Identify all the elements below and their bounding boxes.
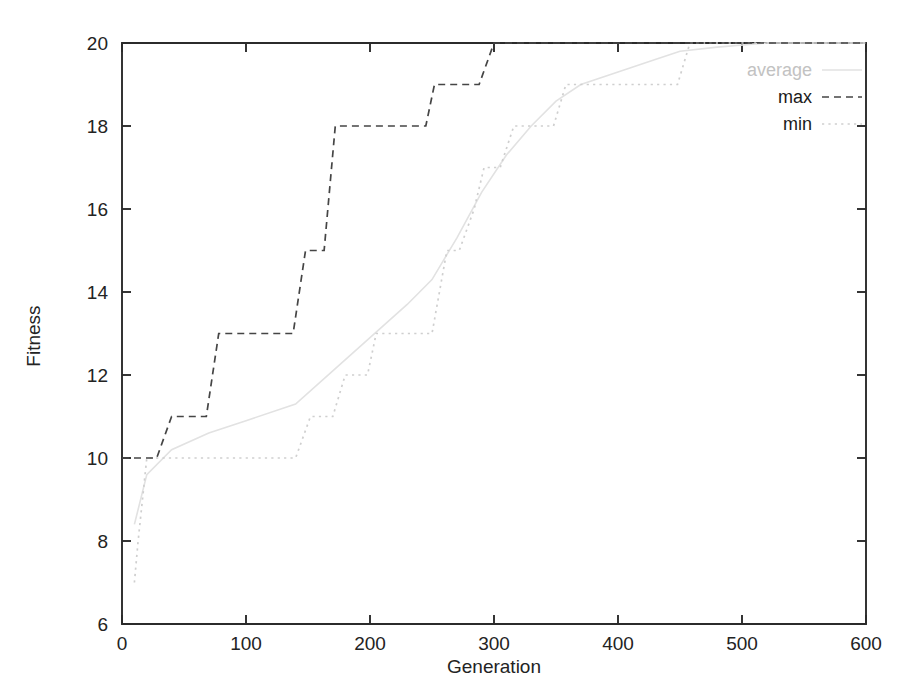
- chart-canvas: 0100200300400500600 68101214161820 Gener…: [0, 0, 913, 692]
- legend-label-min: min: [783, 114, 812, 134]
- y-tick-label: 14: [87, 282, 109, 303]
- y-tick-label: 16: [87, 199, 108, 220]
- x-tick-label: 200: [354, 633, 386, 654]
- x-axis-tick-marks: [122, 43, 866, 624]
- y-axis-title: Fitness: [23, 305, 44, 366]
- y-tick-label: 10: [87, 448, 108, 469]
- x-tick-label: 500: [726, 633, 758, 654]
- y-axis-tick-marks: [122, 43, 866, 624]
- y-tick-label: 6: [97, 614, 108, 635]
- series-line-average: [134, 43, 866, 524]
- fitness-generation-chart: 0100200300400500600 68101214161820 Gener…: [0, 0, 913, 692]
- legend: averagemaxmin: [747, 60, 862, 134]
- plot-frame: [122, 43, 866, 624]
- series-line-min: [134, 43, 866, 583]
- y-tick-label: 12: [87, 365, 108, 386]
- x-tick-label: 0: [117, 633, 128, 654]
- y-tick-label: 20: [87, 33, 108, 54]
- y-tick-label: 8: [97, 531, 108, 552]
- x-tick-label: 400: [602, 633, 634, 654]
- x-axis-title: Generation: [447, 656, 541, 677]
- legend-label-average: average: [747, 60, 812, 80]
- x-tick-label: 300: [478, 633, 510, 654]
- legend-label-max: max: [778, 87, 812, 107]
- series-line-max: [122, 43, 866, 458]
- y-axis-tick-labels: 68101214161820: [87, 33, 109, 635]
- series-group: [122, 43, 866, 583]
- x-tick-label: 100: [230, 633, 262, 654]
- y-tick-label: 18: [87, 116, 108, 137]
- x-tick-label: 600: [850, 633, 882, 654]
- x-axis-tick-labels: 0100200300400500600: [117, 633, 882, 654]
